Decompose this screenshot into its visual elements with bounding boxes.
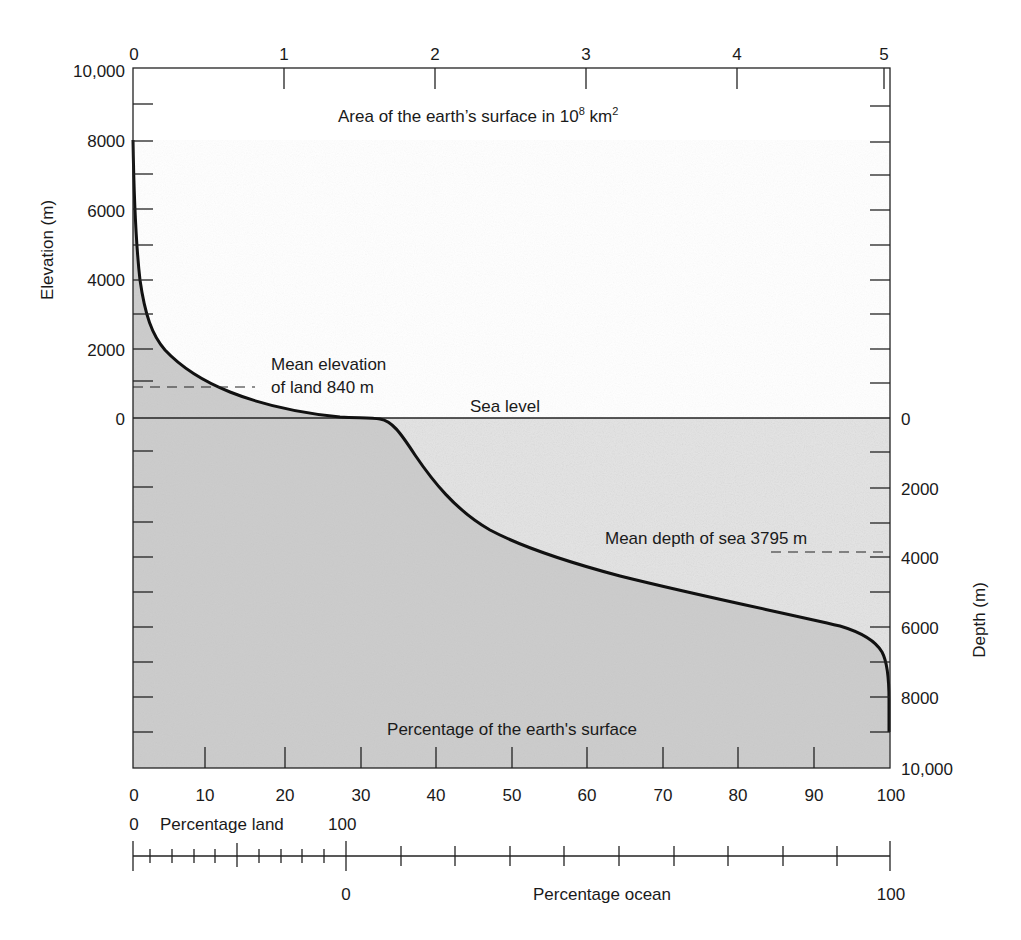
mean-elevation-label-2: of land 840 m — [271, 378, 374, 397]
left-tick-2000: 2000 — [87, 341, 125, 360]
bottom-tick-0: 0 — [129, 786, 138, 805]
top-tick-0: 0 — [129, 45, 138, 64]
ocean-scale-title: Percentage ocean — [533, 885, 671, 904]
left-axis-title: Elevation (m) — [38, 200, 57, 300]
right-tick-4000: 4000 — [901, 549, 939, 568]
right-tick-6000: 6000 — [901, 619, 939, 638]
left-tick-6000: 6000 — [87, 202, 125, 221]
bottom-axis-title: Percentage of the earth's surface — [387, 720, 637, 739]
right-tick-2000: 2000 — [901, 480, 939, 499]
bottom-tick-60: 60 — [578, 786, 597, 805]
right-axis-labels: 0 2000 4000 6000 8000 10,000 — [901, 410, 953, 779]
left-tick-8000: 8000 — [87, 132, 125, 151]
left-tick-10000: 10,000 — [73, 62, 125, 81]
mean-elevation-label-1: Mean elevation — [271, 355, 386, 374]
top-axis-labels: 0 1 2 3 4 5 — [129, 45, 888, 64]
bottom-tick-40: 40 — [427, 786, 446, 805]
mean-depth-label: Mean depth of sea 3795 m — [605, 529, 807, 548]
bottom-tick-100: 100 — [877, 786, 905, 805]
top-axis-ticks — [284, 68, 884, 89]
left-tick-0: 0 — [116, 410, 125, 429]
land-scale-title: Percentage land — [160, 815, 284, 834]
right-axis-title: Depth (m) — [970, 582, 989, 658]
bottom-tick-10: 10 — [196, 786, 215, 805]
bottom-tick-80: 80 — [729, 786, 748, 805]
bottom-tick-50: 50 — [503, 786, 522, 805]
hypsographic-chart: 0 1 2 3 4 5 Area of the earth’s surface … — [0, 0, 1021, 940]
bottom-tick-70: 70 — [654, 786, 673, 805]
top-tick-5: 5 — [879, 45, 888, 64]
left-tick-4000: 4000 — [87, 271, 125, 290]
top-axis-title: Area of the earth’s surface in 108 km2 — [338, 105, 618, 126]
bottom-axis-labels: 0 10 20 30 40 50 60 70 80 90 100 — [129, 786, 905, 805]
ocean-scale-start: 0 — [341, 885, 350, 904]
land-scale-start: 0 — [129, 815, 138, 834]
land-scale-end: 100 — [328, 815, 356, 834]
land-ocean-scale — [133, 841, 890, 871]
bottom-tick-20: 20 — [276, 786, 295, 805]
top-tick-2: 2 — [430, 45, 439, 64]
sea-level-label: Sea level — [470, 397, 540, 416]
bottom-tick-30: 30 — [352, 786, 371, 805]
right-tick-10000: 10,000 — [901, 760, 953, 779]
top-tick-3: 3 — [581, 45, 590, 64]
bottom-tick-90: 90 — [805, 786, 824, 805]
right-tick-0: 0 — [901, 410, 910, 429]
top-tick-1: 1 — [279, 45, 288, 64]
top-tick-4: 4 — [732, 45, 741, 64]
right-tick-8000: 8000 — [901, 689, 939, 708]
left-axis-labels: 10,000 8000 6000 4000 2000 0 — [73, 62, 125, 429]
ocean-scale-end: 100 — [877, 885, 905, 904]
